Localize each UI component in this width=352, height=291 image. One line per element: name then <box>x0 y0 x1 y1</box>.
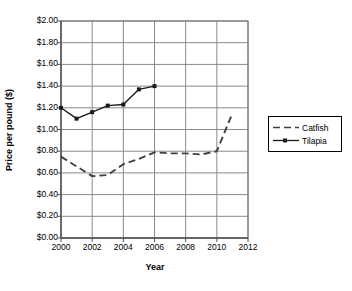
legend-label-catfish: Catfish <box>300 123 328 133</box>
legend-label-tilapia: Tilapia <box>300 136 327 146</box>
data-point-tilapia <box>106 104 110 108</box>
data-point-tilapia <box>137 87 141 91</box>
series-line-catfish <box>61 113 232 176</box>
catfish-line-swatch-icon <box>272 122 300 133</box>
tilapia-line-swatch-icon <box>272 135 300 146</box>
data-point-tilapia <box>75 117 79 121</box>
data-point-tilapia <box>121 103 125 107</box>
chart-legend: Catfish Tilapia <box>268 116 342 152</box>
legend-item-tilapia[interactable]: Tilapia <box>272 134 338 147</box>
data-point-tilapia <box>90 110 94 114</box>
legend-item-catfish[interactable]: Catfish <box>272 121 338 134</box>
data-point-tilapia <box>59 106 63 110</box>
price-per-pound-line-chart: Price per pound ($) $0.00$0.20$0.40$0.60… <box>0 0 352 291</box>
data-point-tilapia <box>153 84 157 88</box>
